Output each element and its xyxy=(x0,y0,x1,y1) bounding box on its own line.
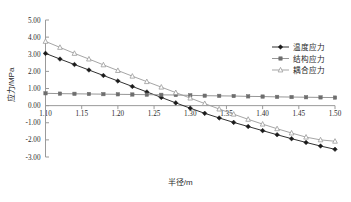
y-tick-label: 4.00 xyxy=(28,34,41,42)
data-point-marker xyxy=(101,73,106,78)
chart-legend: 温度应力结构应力耦合应力 xyxy=(272,42,325,75)
legend-label: 结构应力 xyxy=(293,54,325,64)
legend-item: 耦合应力 xyxy=(272,65,325,75)
data-point-marker xyxy=(319,96,322,99)
data-point-marker xyxy=(58,92,61,95)
data-point-marker xyxy=(87,68,92,73)
data-point-marker xyxy=(304,96,307,99)
data-point-marker xyxy=(275,132,280,137)
x-tick-label: 1.50 xyxy=(329,110,342,118)
y-tick-label: 0.00 xyxy=(28,102,41,110)
x-tick-label: 1.25 xyxy=(148,110,161,118)
x-axis-tick-labels: 1.101.151.201.251.301.351.401.451.50 xyxy=(39,110,341,118)
chart-canvas: -3.00-2.00-1.000.001.002.003.004.005.00 … xyxy=(0,0,351,202)
y-tick-label: -2.00 xyxy=(26,136,41,144)
data-point-marker xyxy=(278,45,283,50)
data-point-marker xyxy=(102,92,105,95)
data-point-marker xyxy=(43,39,48,44)
data-point-marker xyxy=(73,92,76,95)
data-point-marker xyxy=(261,95,264,98)
data-point-marker xyxy=(131,93,134,96)
data-point-marker xyxy=(246,124,251,129)
legend-item: 结构应力 xyxy=(272,54,325,64)
data-point-marker xyxy=(304,140,309,145)
data-point-marker xyxy=(203,94,206,97)
data-point-marker xyxy=(116,79,121,84)
legend-label: 耦合应力 xyxy=(293,65,325,75)
y-axis-tick-labels: -3.00-2.00-1.000.001.002.003.004.005.00 xyxy=(26,17,41,162)
data-point-marker xyxy=(290,95,293,98)
data-point-marker xyxy=(87,92,90,95)
data-point-marker xyxy=(279,57,282,60)
data-point-marker xyxy=(58,57,63,62)
data-point-marker xyxy=(289,136,294,141)
data-point-marker xyxy=(246,95,249,98)
data-point-marker xyxy=(173,101,178,106)
x-tick-label: 1.20 xyxy=(112,110,125,118)
x-tick-label: 1.40 xyxy=(256,110,269,118)
legend-item: 温度应力 xyxy=(272,42,325,52)
data-point-marker xyxy=(333,96,336,99)
y-tick-label: 3.00 xyxy=(28,51,41,59)
data-point-marker xyxy=(318,144,323,149)
y-tick-label: -3.00 xyxy=(26,154,41,162)
y-tick-label: 1.00 xyxy=(28,85,41,93)
data-point-marker xyxy=(43,51,48,56)
x-axis-title: 半径/m xyxy=(168,177,193,187)
x-tick-label: 1.15 xyxy=(75,110,88,118)
stress-radius-line-chart: -3.00-2.00-1.000.001.002.003.004.005.00 … xyxy=(0,0,351,202)
data-point-marker xyxy=(333,147,338,152)
data-point-marker xyxy=(160,93,163,96)
y-axis-title: 应力/MPa xyxy=(6,67,16,102)
y-tick-label: 2.00 xyxy=(28,68,41,76)
data-point-marker xyxy=(202,111,207,116)
y-tick-label: -1.00 xyxy=(26,119,41,127)
data-point-marker xyxy=(145,93,148,96)
x-tick-label: 1.30 xyxy=(184,110,197,118)
data-point-marker xyxy=(44,92,47,95)
data-point-marker xyxy=(218,94,221,97)
legend-label: 温度应力 xyxy=(293,42,325,52)
data-point-marker xyxy=(275,95,278,98)
data-point-marker xyxy=(260,128,265,133)
y-tick-label: 5.00 xyxy=(28,17,41,25)
data-point-marker xyxy=(72,62,77,67)
data-point-marker xyxy=(231,120,236,125)
data-point-marker xyxy=(130,84,135,89)
x-tick-label: 1.45 xyxy=(293,110,306,118)
data-point-marker xyxy=(232,94,235,97)
data-point-marker xyxy=(116,93,119,96)
